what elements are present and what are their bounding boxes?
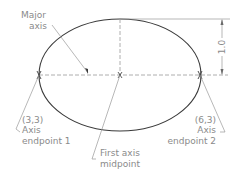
dimension-value-text: 1.0: [217, 40, 227, 55]
ellipse-diagram: 1.0 Major axis (3,3) Axis endpoint 1 (6,…: [0, 0, 240, 179]
midpoint-label-1: First axis: [100, 148, 140, 158]
dimension-arrow-bottom: [221, 69, 224, 75]
endpoint1-label-1: Axis: [22, 125, 41, 135]
dimension-arrow-top: [221, 19, 224, 25]
endpoint1-coord-label: (3,3): [22, 115, 43, 125]
major-axis-leader: [52, 25, 88, 73]
endpoint2-coord-label: (6,3): [195, 115, 216, 125]
major-axis-leader-arrow: [85, 68, 88, 74]
endpoint1-label-2: endpoint 1: [22, 136, 71, 146]
major-axis-label-1: Major: [21, 10, 46, 20]
endpoint2-label-1: Axis: [197, 125, 216, 135]
midpoint-leader: [92, 75, 120, 159]
midpoint-label-2: midpoint: [100, 159, 140, 169]
major-axis-label-2: axis: [29, 21, 47, 31]
endpoint2-label-2: endpoint 2: [168, 136, 217, 146]
